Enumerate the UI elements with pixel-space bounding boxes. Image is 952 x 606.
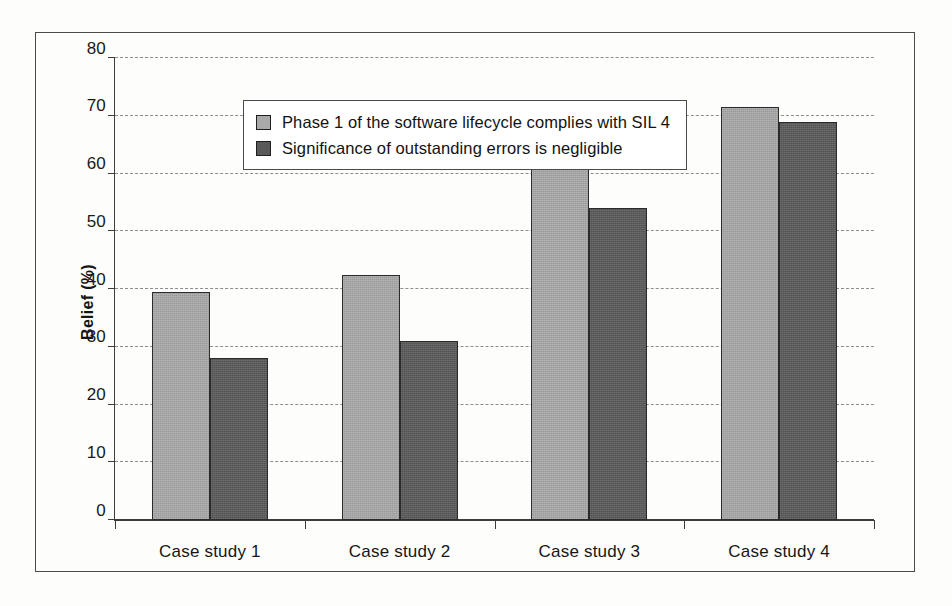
bar-series2 [589,208,647,520]
legend-item-label: Phase 1 of the software lifecycle compli… [282,113,670,132]
y-axis-tick-label: 10 [87,443,106,463]
x-axis-category-label: Case study 3 [539,542,641,562]
x-axis-category-label: Case study 2 [349,542,451,562]
bar-series1 [152,292,210,520]
bar-group [684,58,874,520]
legend-item: Phase 1 of the software lifecycle compli… [256,109,670,135]
y-axis-tick-label: 40 [87,270,106,290]
legend-item: Significance of outstanding errors is ne… [256,135,670,161]
y-axis-tick-mark [108,346,115,347]
x-axis-tick-mark [495,520,496,529]
y-axis-tick-label: 60 [87,154,106,174]
x-axis-tick-mark [874,520,875,529]
plot-area: 01020304050607080 Case study 1Case study… [114,58,874,521]
bar-series2 [400,341,458,520]
chart-figure: Belief (%) 01020304050607080 Case study … [35,32,915,572]
chart-legend: Phase 1 of the software lifecycle compli… [243,100,687,170]
y-axis-tick-mark [108,519,115,520]
x-axis-category-label: Case study 4 [728,542,830,562]
dark-gray-swatch [256,141,271,156]
legend-item-label: Significance of outstanding errors is ne… [282,139,623,158]
y-axis-tick-label: 50 [87,212,106,232]
y-axis-tick-mark [108,230,115,231]
x-axis-tick-mark [305,520,306,529]
bar-series1 [531,168,589,520]
y-axis-tick-label: 20 [87,385,106,405]
y-axis-tick-label: 0 [96,501,106,521]
x-axis-tick-mark [684,520,685,529]
x-axis-category-label: Case study 1 [159,542,261,562]
y-axis-tick-mark [108,173,115,174]
y-axis-tick-mark [108,57,115,58]
bar-series2 [779,122,837,520]
y-axis-tick-mark [108,115,115,116]
x-axis-tick-mark [115,520,116,529]
y-axis-tick-label: 30 [87,327,106,347]
bar-series2 [210,358,268,520]
y-axis-tick-label: 70 [87,96,106,116]
y-axis-tick-label: 80 [87,39,106,59]
light-gray-swatch [256,115,271,130]
y-axis-tick-mark [108,404,115,405]
bar-series1 [721,107,779,520]
y-axis-tick-mark [108,461,115,462]
bar-series1 [342,275,400,520]
y-axis-tick-mark [108,288,115,289]
